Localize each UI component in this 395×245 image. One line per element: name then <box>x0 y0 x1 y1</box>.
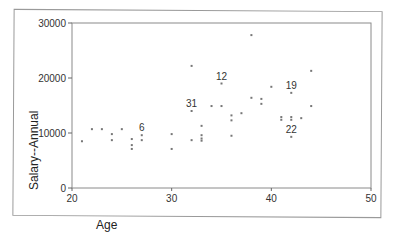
x-tick-label: 30 <box>166 193 178 204</box>
data-point <box>260 98 262 100</box>
data-point <box>310 70 312 72</box>
data-point <box>280 119 282 121</box>
y-tick-label: 0 <box>60 183 66 194</box>
data-point <box>250 97 252 99</box>
data-point <box>141 139 143 141</box>
x-tick-label: 50 <box>365 193 377 204</box>
y-tick-label: 20000 <box>38 73 66 84</box>
data-point <box>131 138 133 140</box>
data-point <box>131 148 133 150</box>
data-point <box>191 65 193 67</box>
data-point <box>201 125 203 127</box>
point-label: 22 <box>286 124 298 135</box>
data-point <box>290 116 292 118</box>
data-point <box>290 136 292 138</box>
data-point <box>230 114 232 116</box>
data-point <box>230 135 232 137</box>
data-point <box>81 140 83 142</box>
y-axis-title: Salary--Annual <box>27 111 41 190</box>
data-point <box>260 103 262 105</box>
x-axis-title: Age <box>96 218 118 232</box>
data-point <box>111 133 113 135</box>
data-point <box>201 140 203 142</box>
data-point <box>221 83 223 85</box>
data-point <box>211 105 213 107</box>
data-point <box>240 112 242 114</box>
data-point <box>201 134 203 136</box>
data-point <box>121 128 123 130</box>
data-point <box>191 139 193 141</box>
point-label: 31 <box>186 98 198 109</box>
y-tick-label: 10000 <box>38 128 66 139</box>
data-point <box>91 128 93 130</box>
data-point <box>171 148 173 150</box>
data-point <box>290 119 292 121</box>
data-point <box>191 110 193 112</box>
x-axis: 20304050 <box>66 188 377 204</box>
data-point <box>270 86 272 88</box>
point-label: 12 <box>216 71 228 82</box>
data-points: 631122219 <box>81 34 312 150</box>
data-point <box>290 92 292 94</box>
data-point <box>141 134 143 136</box>
data-point <box>111 139 113 141</box>
data-point <box>171 133 173 135</box>
data-point <box>221 105 223 107</box>
data-point <box>310 105 312 107</box>
y-axis: 0100002000030000 <box>38 18 72 194</box>
point-label: 6 <box>139 122 145 133</box>
point-label: 19 <box>286 80 298 91</box>
data-point <box>300 117 302 119</box>
x-tick-label: 20 <box>66 193 78 204</box>
data-point <box>101 128 103 130</box>
data-point <box>131 144 133 146</box>
scatter-plot: 0100002000030000 20304050 631122219 Age … <box>0 0 395 245</box>
y-tick-label: 30000 <box>38 18 66 29</box>
data-point <box>250 34 252 36</box>
data-point <box>280 116 282 118</box>
data-point <box>230 119 232 121</box>
x-tick-label: 40 <box>266 193 278 204</box>
data-point <box>201 138 203 140</box>
